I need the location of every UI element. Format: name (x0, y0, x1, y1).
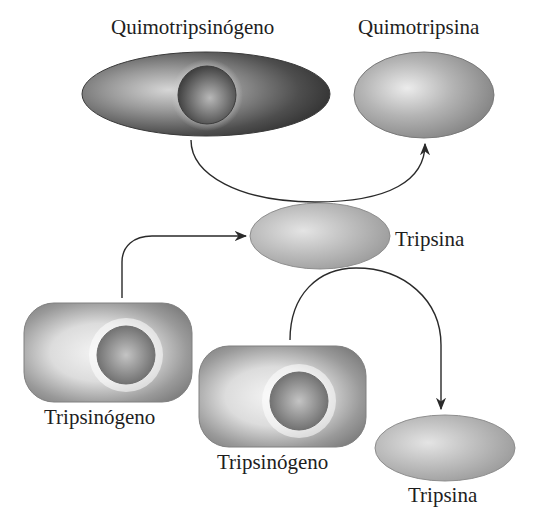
label-tripsinogeno-right: Tripsinógeno (217, 452, 328, 473)
tripsinogeno-left-shape (24, 303, 192, 402)
label-quimotripsina: Quimotripsina (358, 17, 479, 38)
label-tripsina-mid: Tripsina (395, 229, 464, 250)
zymogen-activation-diagram: Quimotripsinógeno Quimotripsina Tripsina… (0, 0, 545, 527)
label-tripsinogeno-left: Tripsinógeno (44, 407, 155, 428)
arrow-quimotripsinogeno-to-quimotripsina (191, 140, 425, 202)
arrow-tripsinogeno-to-tripsina (122, 236, 246, 298)
tripsinogeno-right-shape (199, 346, 366, 447)
label-tripsina-bottom: Tripsina (408, 485, 477, 506)
diagram-canvas (0, 0, 545, 527)
quimotripsina-shape (354, 52, 494, 138)
tripsina-bottom-shape (375, 415, 515, 481)
tripsina-mid-shape (250, 203, 390, 269)
quimotripsinogeno-shape (82, 52, 330, 136)
label-quimotripsinogeno: Quimotripsinógeno (111, 17, 274, 38)
